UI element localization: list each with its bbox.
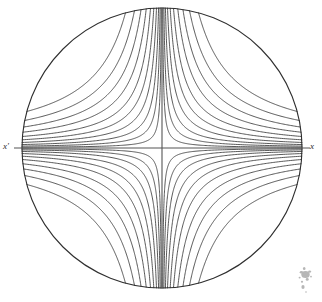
- ink-smudge-artifact: [299, 267, 312, 293]
- hyperbola-curve: [183, 169, 300, 286]
- hyperbola-curve: [23, 164, 146, 287]
- hyperbola-curve: [178, 9, 301, 132]
- figure-canvas: [0, 0, 322, 302]
- hyperbola-curve: [174, 8, 302, 136]
- hyperbola-curve: [190, 176, 300, 286]
- hyperbola-curve: [27, 185, 126, 284]
- hyperbola-curve: [25, 11, 135, 121]
- hyperbola-curve: [24, 169, 141, 286]
- hyperbola-curve: [199, 13, 298, 112]
- hyperbola-curve: [25, 176, 135, 286]
- axis-label-x: x: [310, 142, 314, 151]
- hyperbola-curve: [27, 13, 126, 112]
- hyperbola-curve: [24, 10, 141, 127]
- hyperbola-curve: [22, 8, 150, 136]
- hyperbola-curve: [199, 185, 298, 284]
- axis-label-x-prime: x': [3, 142, 9, 151]
- figure-container: x' x: [0, 0, 322, 302]
- hyperbola-curve: [23, 9, 146, 132]
- hyperbola-curve: [174, 160, 302, 288]
- hyperbola-curve: [22, 160, 150, 288]
- hyperbola-curve: [190, 11, 300, 121]
- hyperbola-curve: [183, 10, 300, 127]
- hyperbola-curve: [178, 164, 301, 287]
